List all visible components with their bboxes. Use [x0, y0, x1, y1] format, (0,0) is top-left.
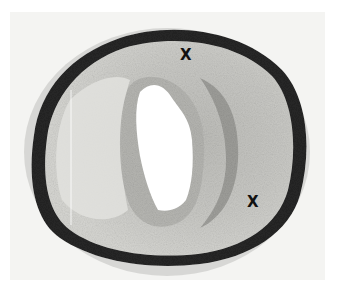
annotation-marker-bottom-right: X — [247, 195, 259, 210]
annotation-marker-top: X — [180, 48, 192, 63]
micrograph-figure: X X — [0, 0, 337, 295]
artery-cross-section — [0, 0, 337, 295]
